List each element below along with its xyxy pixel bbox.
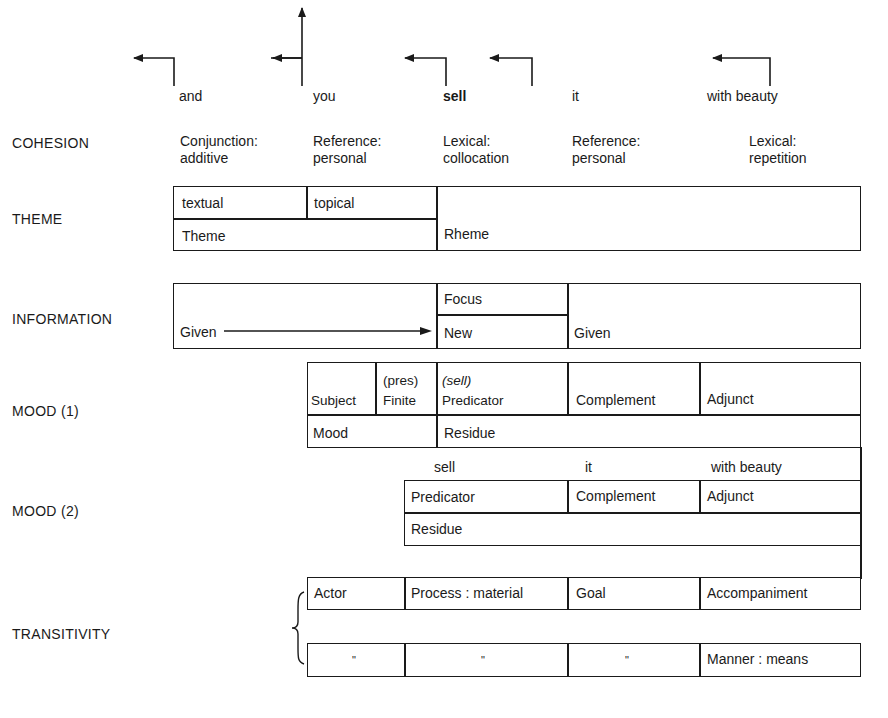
- divider: [404, 577, 406, 610]
- mood2-word-with-beauty: with beauty: [711, 459, 782, 476]
- trans-actor: Actor: [314, 585, 347, 602]
- info-focus: Focus: [444, 291, 482, 308]
- divider: [699, 362, 701, 415]
- divider: [436, 362, 438, 448]
- cohesion-subtype: personal: [313, 150, 381, 167]
- arrow-sell-icon: [405, 58, 446, 86]
- mood2-complement: Complement: [576, 488, 655, 505]
- trans-ditto-goal: ": [625, 652, 629, 669]
- trans-ditto-process: ": [481, 652, 485, 669]
- divider: [699, 643, 701, 677]
- cohesion-subtype: additive: [180, 150, 258, 167]
- clause-word-you: you: [313, 88, 336, 104]
- theme-topical: topical: [314, 195, 354, 212]
- mood1-complement: Complement: [576, 392, 655, 409]
- row-label-cohesion: COHESION: [12, 135, 89, 151]
- divider: [375, 362, 377, 415]
- cohesion-item: Lexical: collocation: [443, 133, 509, 167]
- arrow-it-icon: [490, 58, 532, 86]
- divider: [307, 414, 861, 416]
- trans-ditto-actor: ": [352, 652, 356, 669]
- info-given-2: Given: [574, 325, 611, 342]
- row-label-theme: THEME: [12, 211, 63, 227]
- row-label-mood-2: MOOD (2): [12, 503, 79, 519]
- row-label-mood-1: MOOD (1): [12, 403, 79, 419]
- row-label-information: INFORMATION: [12, 311, 112, 327]
- cohesion-item: Reference: personal: [313, 133, 381, 167]
- cohesion-item: Lexical: repetition: [749, 133, 807, 167]
- mood2-word-it: it: [585, 459, 592, 476]
- divider: [567, 283, 569, 349]
- row-label-transitivity: TRANSITIVITY: [12, 626, 111, 642]
- divider: [699, 480, 701, 513]
- theme-theme: Theme: [182, 228, 226, 245]
- divider: [567, 577, 569, 610]
- mood1-finite: Finite: [383, 392, 416, 409]
- divider: [699, 577, 701, 610]
- info-given-1: Given: [180, 324, 217, 341]
- trans-accompaniment: Accompaniment: [707, 585, 807, 602]
- mood2-residue: Residue: [411, 521, 462, 538]
- divider: [436, 283, 438, 349]
- mood2-word-sell: sell: [434, 459, 455, 476]
- theme-rheme: Rheme: [444, 226, 489, 243]
- arrow-and-icon: [134, 58, 174, 86]
- cohesion-type: Reference:: [313, 133, 381, 150]
- cohesion-subtype: repetition: [749, 150, 807, 167]
- cohesion-type: Lexical:: [443, 133, 509, 150]
- divider: [173, 218, 437, 220]
- cohesion-item: Reference: personal: [572, 133, 640, 167]
- mood1-adjunct: Adjunct: [707, 391, 754, 408]
- cohesion-subtype: personal: [572, 150, 640, 167]
- divider: [306, 186, 308, 219]
- divider: [436, 186, 438, 251]
- clause-word-with-beauty: with beauty: [707, 88, 778, 104]
- divider: [404, 643, 406, 677]
- cohesion-type: Lexical:: [749, 133, 807, 150]
- clause-word-sell: sell: [443, 88, 466, 104]
- divider: [436, 314, 568, 316]
- clause-word-it: it: [572, 88, 579, 104]
- cohesion-item: Conjunction: additive: [180, 133, 258, 167]
- trans-process: Process : material: [411, 585, 523, 602]
- mood1-finite-tense: (pres): [383, 372, 418, 389]
- mood2-predicator: Predicator: [411, 489, 475, 506]
- brace-icon: [290, 590, 308, 666]
- trans-manner: Manner : means: [707, 651, 808, 668]
- cohesion-subtype: collocation: [443, 150, 509, 167]
- divider: [567, 643, 569, 677]
- theme-textual: textual: [182, 195, 223, 212]
- cohesion-arrows: [0, 0, 888, 90]
- divider: [567, 480, 569, 513]
- info-new: New: [444, 325, 472, 342]
- divider: [404, 512, 861, 514]
- given-to-new-arrow-icon: [224, 324, 434, 338]
- information-box: [173, 283, 861, 349]
- cohesion-type: Reference:: [572, 133, 640, 150]
- mood2-adjunct: Adjunct: [707, 488, 754, 505]
- mood1-mood: Mood: [313, 425, 348, 442]
- mood1-residue: Residue: [444, 425, 495, 442]
- cohesion-type: Conjunction:: [180, 133, 258, 150]
- clause-word-and: and: [179, 88, 202, 104]
- trans-goal: Goal: [576, 585, 606, 602]
- mood1-predicator: Predicator: [442, 392, 504, 409]
- divider: [567, 362, 569, 415]
- mood1-predicator-lexeme: (sell): [442, 372, 471, 389]
- arrow-with-beauty-icon: [713, 58, 770, 86]
- mood1-subject: Subject: [311, 392, 356, 409]
